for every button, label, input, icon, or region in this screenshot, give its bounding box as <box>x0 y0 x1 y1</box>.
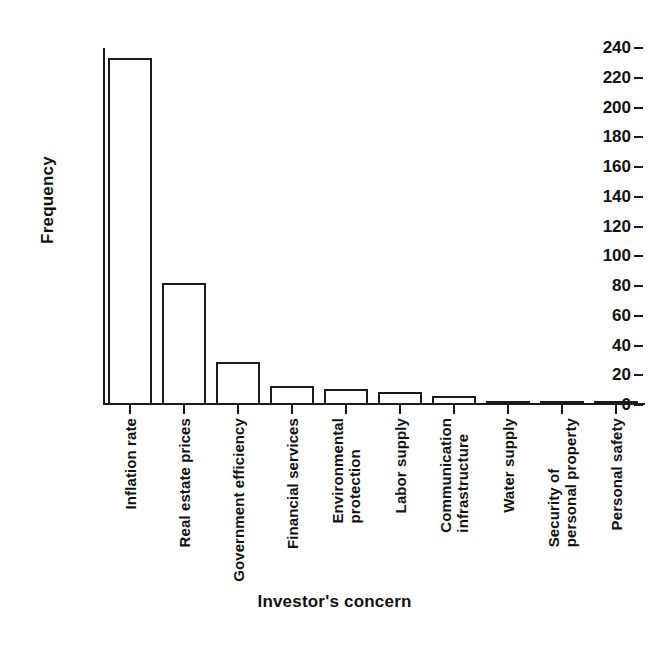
x-tick <box>615 405 617 414</box>
bar <box>108 58 152 405</box>
x-category-label-line: Water supply <box>500 418 517 513</box>
x-category-label-line: Government efficiency <box>230 418 247 582</box>
x-tick <box>345 405 347 414</box>
x-category-label: Real estate prices <box>176 418 193 547</box>
x-tick <box>183 405 185 414</box>
x-tick <box>291 405 293 414</box>
x-category-label: Personal safety <box>608 418 625 530</box>
x-category-label: Financial services <box>284 418 301 549</box>
x-tick <box>453 405 455 414</box>
x-category-label-line: Security of <box>545 418 562 547</box>
bar <box>378 392 422 405</box>
x-tick <box>237 405 239 414</box>
x-category-label-line: Communication <box>437 418 454 533</box>
x-category-label-line: protection <box>346 418 363 524</box>
x-category-label: Environmentalprotection <box>329 418 363 524</box>
x-tick <box>561 405 563 414</box>
bar-series <box>103 48 643 405</box>
x-category-label-line: Real estate prices <box>176 418 193 547</box>
x-category-label-line: personal property <box>562 418 579 547</box>
x-category-label-line: Environmental <box>329 418 346 524</box>
bar <box>432 396 476 405</box>
x-tick <box>507 405 509 414</box>
bar <box>270 386 314 405</box>
x-axis-title: Investor's concern <box>0 592 669 612</box>
x-category-label: Labor supply <box>392 418 409 513</box>
x-category-label: Communicationinfrastructure <box>437 418 471 533</box>
bar-chart-figure: Frequency 020406080100120140160180200220… <box>0 0 669 651</box>
plot-area: 020406080100120140160180200220240 <box>103 48 643 405</box>
x-category-label-line: Financial services <box>284 418 301 549</box>
bar <box>216 362 260 405</box>
x-category-label: Inflation rate <box>122 418 139 509</box>
x-category-label: Security ofpersonal property <box>545 418 579 547</box>
x-category-label-line: Labor supply <box>392 418 409 513</box>
y-axis-title: Frequency <box>38 130 58 270</box>
x-category-label: Government efficiency <box>230 418 247 582</box>
bar <box>162 283 206 405</box>
x-axis-category-labels: Inflation rateReal estate pricesGovernme… <box>103 414 643 589</box>
x-tick <box>399 405 401 414</box>
x-category-label: Water supply <box>500 418 517 513</box>
x-category-label-line: infrastructure <box>454 418 471 533</box>
x-category-label-line: Personal safety <box>608 418 625 530</box>
x-category-label-line: Inflation rate <box>122 418 139 509</box>
x-tick <box>129 405 131 414</box>
bar <box>324 389 368 405</box>
